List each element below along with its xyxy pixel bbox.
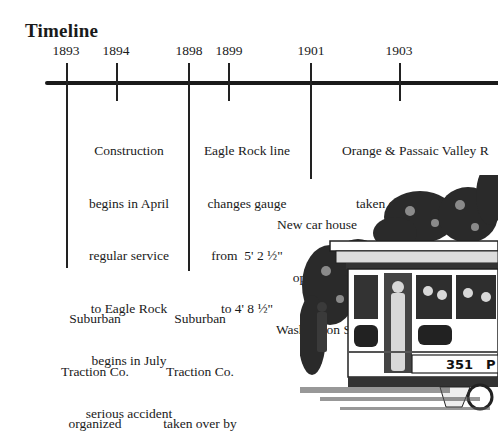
tick-1901 (310, 63, 312, 179)
year-label-1898: 1898 (176, 43, 203, 59)
tick-1903 (399, 63, 401, 101)
trolley-illustration: 351 P (300, 175, 498, 439)
tick-1899 (228, 63, 230, 101)
timeline-axis (45, 81, 498, 85)
tick-1898 (188, 63, 190, 271)
year-label-1893: 1893 (53, 43, 80, 59)
year-label-1894: 1894 (103, 43, 130, 59)
year-label-1903: 1903 (386, 43, 413, 59)
svg-text:P: P (486, 357, 496, 372)
tick-1894 (116, 63, 118, 101)
trolley-engraving-icon: 351 P (300, 175, 498, 439)
page-title: Timeline (25, 20, 98, 42)
year-label-1899: 1899 (216, 43, 243, 59)
car-number: 351 (446, 357, 473, 372)
tick-1893 (66, 63, 68, 268)
year-label-1901: 1901 (298, 43, 325, 59)
